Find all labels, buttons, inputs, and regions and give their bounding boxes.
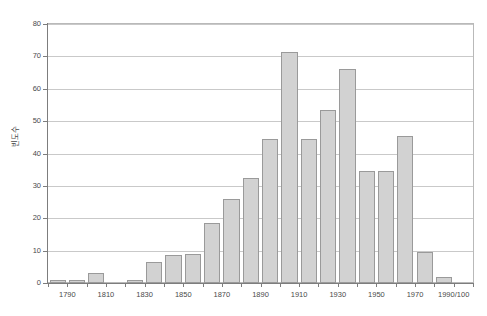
- x-tick-mark: [473, 283, 474, 287]
- y-tick-mark: [43, 89, 47, 90]
- x-tick-mark: [125, 283, 126, 287]
- x-tick-mark: [183, 283, 184, 287]
- x-tick-mark: [67, 283, 68, 287]
- y-tick-mark: [43, 121, 47, 122]
- x-tick-mark: [280, 283, 281, 287]
- y-axis-title: 빈도수: [11, 133, 20, 147]
- x-tick-mark: [87, 283, 88, 287]
- bar: [185, 254, 201, 283]
- y-tick-label: 80: [7, 20, 41, 28]
- bar: [146, 262, 162, 283]
- x-tick-label: 1910: [291, 290, 308, 299]
- y-tick-label: 0: [7, 279, 41, 287]
- bar-chart: 빈도수 01020304050607080 179018101830185018…: [0, 0, 487, 316]
- y-tick-label: 70: [7, 52, 41, 60]
- x-tick-mark: [318, 283, 319, 287]
- bar: [165, 255, 181, 283]
- x-tick-label: 1810: [98, 290, 115, 299]
- bar: [397, 136, 413, 283]
- y-tick-label: 20: [7, 214, 41, 222]
- bar: [281, 52, 297, 283]
- y-tick-label: 40: [7, 150, 41, 158]
- y-tick-mark: [43, 283, 47, 284]
- x-tick-mark: [222, 283, 223, 287]
- bar: [262, 139, 278, 283]
- x-tick-label: 1950: [368, 290, 385, 299]
- x-tick-mark: [357, 283, 358, 287]
- y-tick-label: 10: [7, 247, 41, 255]
- bar: [320, 110, 336, 283]
- x-tick-mark: [338, 283, 339, 287]
- x-tick-mark: [203, 283, 204, 287]
- x-tick-label: 1790: [59, 290, 76, 299]
- bar: [127, 280, 143, 283]
- bar: [69, 280, 85, 283]
- x-tick-mark: [396, 283, 397, 287]
- x-tick-label: 1890: [252, 290, 269, 299]
- y-tick-label: 30: [7, 182, 41, 190]
- bar: [417, 252, 433, 283]
- y-tick-mark: [43, 186, 47, 187]
- x-tick-mark: [434, 283, 435, 287]
- bar: [359, 171, 375, 283]
- x-tick-mark: [48, 283, 49, 287]
- x-tick-mark: [145, 283, 146, 287]
- x-tick-mark: [261, 283, 262, 287]
- x-tick-mark: [376, 283, 377, 287]
- bar: [243, 178, 259, 283]
- y-tick-mark: [43, 251, 47, 252]
- x-tick-mark: [454, 283, 455, 287]
- bar: [339, 69, 355, 283]
- bar: [378, 171, 394, 283]
- x-tick-label: 1870: [214, 290, 231, 299]
- bar: [88, 273, 104, 283]
- x-tick-label: 1850: [175, 290, 192, 299]
- y-tick-mark: [43, 218, 47, 219]
- y-tick-label: 60: [7, 85, 41, 93]
- bar: [301, 139, 317, 283]
- y-tick-mark: [43, 24, 47, 25]
- bar: [436, 277, 452, 283]
- bar: [50, 280, 66, 283]
- x-tick-label: 1930: [329, 290, 346, 299]
- bar: [223, 199, 239, 283]
- x-tick-mark: [106, 283, 107, 287]
- x-tick-label: 1970: [407, 290, 424, 299]
- x-tick-mark: [164, 283, 165, 287]
- bars-layer: [48, 24, 473, 283]
- x-tick-mark: [415, 283, 416, 287]
- bar: [204, 223, 220, 283]
- x-tick-label: 1990/100: [438, 290, 469, 299]
- y-tick-mark: [43, 154, 47, 155]
- x-tick-mark: [241, 283, 242, 287]
- y-tick-mark: [43, 56, 47, 57]
- y-tick-label: 50: [7, 117, 41, 125]
- x-tick-label: 1830: [136, 290, 153, 299]
- x-tick-mark: [299, 283, 300, 287]
